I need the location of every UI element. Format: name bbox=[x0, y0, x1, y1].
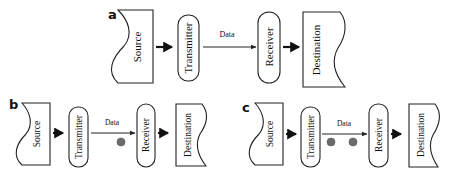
transmitter-node-c: Transmitter bbox=[301, 107, 320, 167]
source-label: Source bbox=[131, 32, 143, 63]
panel-a: a Source Transmitter Data Receiver Desti… bbox=[108, 7, 345, 87]
channel-label-c: Data bbox=[337, 119, 352, 128]
receiver-label: Receiver bbox=[263, 27, 275, 66]
panel-label-c: c bbox=[242, 100, 250, 115]
data-packet bbox=[117, 138, 125, 146]
transmitter-label: Transmitter bbox=[306, 114, 316, 159]
transmitter-label: Transmitter bbox=[74, 114, 84, 159]
destination-node-b: Destination bbox=[176, 104, 206, 166]
source-node-b: Source bbox=[16, 103, 50, 165]
channel-label-b: Data bbox=[105, 118, 120, 127]
data-packet bbox=[327, 138, 335, 146]
destination-label: Destination bbox=[183, 113, 193, 157]
destination-node-a: Destination bbox=[303, 12, 345, 87]
receiver-node-c: Receiver bbox=[369, 104, 388, 167]
data-packet bbox=[349, 138, 357, 146]
receiver-node-a: Receiver bbox=[258, 12, 280, 83]
transmitter-node-b: Transmitter bbox=[69, 107, 88, 167]
source-node-c: Source bbox=[249, 103, 283, 165]
destination-label: Destination bbox=[416, 113, 426, 157]
panel-c: c Source Transmitter Data Receiver Desti… bbox=[242, 100, 439, 167]
panel-label-b: b bbox=[9, 97, 18, 112]
source-label: Source bbox=[265, 121, 275, 147]
channel-label-a: Data bbox=[219, 30, 235, 39]
transmitter-node-a: Transmitter bbox=[178, 15, 199, 81]
panel-b: b Source Transmitter Data Receiver Desti… bbox=[9, 97, 206, 167]
destination-node-c: Destination bbox=[409, 104, 439, 167]
receiver-node-b: Receiver bbox=[137, 104, 155, 167]
receiver-label: Receiver bbox=[141, 117, 151, 152]
destination-label: Destination bbox=[310, 24, 322, 75]
transmitter-label: Transmitter bbox=[182, 22, 194, 73]
source-label: Source bbox=[32, 121, 42, 147]
source-node-a: Source bbox=[111, 10, 153, 83]
receiver-label: Receiver bbox=[374, 117, 384, 152]
panel-label-a: a bbox=[108, 7, 117, 22]
